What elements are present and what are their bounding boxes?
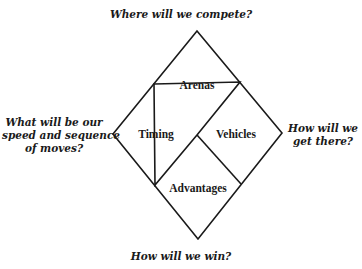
question-speed-sequence: What will be our speed and sequence of m… xyxy=(2,116,106,155)
divider-center-to-lower-right xyxy=(197,135,241,184)
question-left-line-3: of moves? xyxy=(2,142,106,155)
question-left-line-1: What will be our xyxy=(2,116,106,129)
question-how-win: How will we win? xyxy=(0,250,362,263)
label-vehicles: Vehicles xyxy=(216,128,256,140)
question-left-line-2: speed and sequence xyxy=(2,129,106,142)
label-timing: Timing xyxy=(138,128,174,140)
strategy-diamond-diagram: Where will we compete? What will be our … xyxy=(0,0,362,269)
question-right-line-2: get there? xyxy=(284,135,362,148)
question-where-compete: Where will we compete? xyxy=(0,8,362,21)
label-arenas: Arenas xyxy=(180,79,215,91)
question-get-there: How will we get there? xyxy=(284,122,362,148)
question-right-line-1: How will we xyxy=(284,122,362,135)
label-advantages: Advantages xyxy=(169,182,227,194)
